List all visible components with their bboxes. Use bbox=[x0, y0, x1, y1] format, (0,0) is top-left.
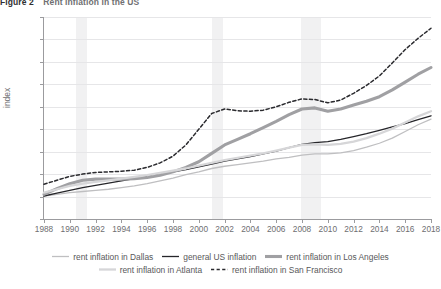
x-tick-label: 1990 bbox=[61, 224, 79, 234]
legend-item[interactable]: rent inflation in Dallas bbox=[52, 252, 153, 262]
legend-item[interactable]: general US inflation bbox=[162, 252, 256, 262]
legend-label: rent inflation in Dallas bbox=[73, 252, 153, 262]
figure-number: Figure 2 bbox=[0, 0, 34, 7]
legend-swatch-icon bbox=[211, 266, 228, 273]
x-tick-label: 2004 bbox=[241, 224, 259, 234]
x-tick-label: 2018 bbox=[422, 224, 440, 234]
x-tick-label: 2006 bbox=[267, 224, 285, 234]
legend-row-bottom: rent inflation in Atlantarent inflation … bbox=[0, 263, 441, 276]
figure-root: Figure 2 Rent inflation in the US index … bbox=[0, 0, 441, 289]
legend-swatch-icon bbox=[99, 266, 116, 273]
x-tick-label: 2002 bbox=[215, 224, 233, 234]
x-tick-label: 1994 bbox=[112, 224, 130, 234]
legend-swatch-icon bbox=[52, 253, 69, 260]
x-tick-label: 2008 bbox=[293, 224, 311, 234]
series-line bbox=[44, 111, 431, 192]
x-tick-label: 2000 bbox=[190, 224, 208, 234]
x-tick-label: 1996 bbox=[138, 224, 156, 234]
series-lines bbox=[44, 17, 431, 219]
x-tick-label: 2016 bbox=[396, 224, 414, 234]
series-line bbox=[44, 68, 431, 195]
x-tick-label: 2014 bbox=[370, 224, 388, 234]
x-tick-label: 1992 bbox=[86, 224, 104, 234]
x-axis-line bbox=[43, 219, 432, 220]
series-line bbox=[44, 28, 431, 184]
legend: rent inflation in Dallasgeneral US infla… bbox=[0, 250, 441, 276]
legend-label: rent inflation in Los Angeles bbox=[286, 252, 388, 262]
x-tick-label: 2010 bbox=[319, 224, 337, 234]
x-tick-label: 2012 bbox=[344, 224, 362, 234]
legend-label: rent inflation in Atlanta bbox=[120, 265, 202, 275]
legend-swatch-icon bbox=[162, 253, 179, 260]
legend-label: general US inflation bbox=[183, 252, 256, 262]
legend-label: rent inflation in San Francisco bbox=[232, 265, 342, 275]
figure-title: Figure 2 Rent inflation in the US bbox=[0, 0, 441, 8]
y-axis-label: index bbox=[2, 88, 12, 108]
series-line bbox=[44, 116, 431, 196]
legend-item[interactable]: rent inflation in Los Angeles bbox=[265, 252, 388, 262]
legend-item[interactable]: rent inflation in Atlanta bbox=[99, 265, 202, 275]
x-tick-label: 1998 bbox=[164, 224, 182, 234]
legend-row-top: rent inflation in Dallasgeneral US infla… bbox=[0, 250, 441, 263]
figure-title-text: Rent inflation in the US bbox=[43, 0, 139, 7]
legend-swatch-icon bbox=[265, 253, 282, 260]
legend-item[interactable]: rent inflation in San Francisco bbox=[211, 265, 342, 275]
plot-area: 44040036032028024020016012080 1988199019… bbox=[44, 17, 431, 219]
x-tick-label: 1988 bbox=[35, 224, 53, 234]
